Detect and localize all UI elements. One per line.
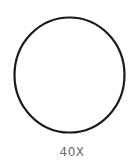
magnification-label: 40X: [0, 145, 132, 159]
field-of-view-circle: [15, 18, 125, 133]
circle-outline-icon: [0, 0, 132, 140]
